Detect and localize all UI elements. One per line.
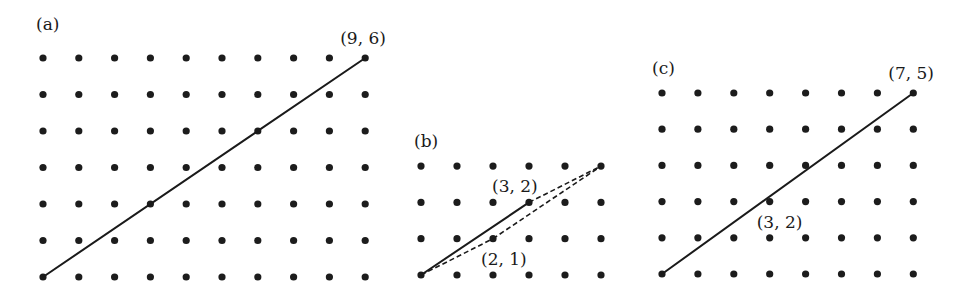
lattice-point [694,234,701,241]
lattice-point [417,235,424,242]
lattice-point [658,198,665,205]
lattice-point [326,127,333,134]
lattice-point [838,89,845,96]
lattice-point [453,163,460,170]
lattice-point [838,126,845,133]
lattice-point [39,54,46,61]
lattice-point [290,91,297,98]
lattice-point [39,200,46,207]
lattice-point [218,91,225,98]
lattice-point [802,234,809,241]
lattice-point [75,164,82,171]
lattice-point [730,89,737,96]
lattice-point [874,270,881,277]
lattice-point [147,54,154,61]
lattice-point [694,89,701,96]
lattice-point [183,54,190,61]
lattice-point [39,127,46,134]
lattice-point [658,234,665,241]
lattice-point [453,271,460,278]
lattice-point [838,162,845,169]
lattice-point [766,89,773,96]
lattice-point [730,198,737,205]
panel-b: (b)(3, 2)(2, 1) [414,131,605,279]
lattice-point [597,235,604,242]
lattice-point [874,234,881,241]
lattice-point [525,271,532,278]
lattice-point [802,198,809,205]
lattice-point [254,273,261,280]
panel-c: (c)(7, 5)(3, 2) [652,58,934,278]
lattice-point [218,127,225,134]
lattice-point [111,164,118,171]
solid-segment [43,58,365,277]
lattice-point [75,200,82,207]
lattice-point [326,273,333,280]
lattice-point [561,199,568,206]
panel-label: (b) [414,131,438,151]
lattice-point [453,199,460,206]
point-label: (3, 2) [757,212,803,232]
lattice-point [218,200,225,207]
lattice-point [254,164,261,171]
lattice-point [802,126,809,133]
point-label: (3, 2) [492,176,538,196]
lattice-point [218,237,225,244]
lattice-point [730,162,737,169]
lattice-point [290,127,297,134]
lattice-point [362,273,369,280]
lattice-point [290,164,297,171]
lattice-point [75,273,82,280]
lattice-point [254,54,261,61]
lattice-point [147,91,154,98]
lattice-point [910,198,917,205]
lattice-point [694,198,701,205]
lattice-point [694,162,701,169]
lattice-point [75,237,82,244]
lattice-point [362,91,369,98]
lattice-point [766,270,773,277]
lattice-point [326,91,333,98]
dashed-segment [529,166,601,202]
lattice-point [489,163,496,170]
lattice-point [254,237,261,244]
lattice-point [183,164,190,171]
lattice-point [838,234,845,241]
lattice-point [730,270,737,277]
lattice-point [218,273,225,280]
lattice-point [183,237,190,244]
lattice-point [525,235,532,242]
lattice-point [326,164,333,171]
lattice-point [111,91,118,98]
lattice-point [694,126,701,133]
point-label: (2, 1) [481,249,527,269]
lattice-point [838,198,845,205]
panel-label: (a) [36,14,59,34]
lattice-point [39,237,46,244]
lattice-point [111,200,118,207]
lattice-point [111,54,118,61]
lattice-point [290,200,297,207]
lattice-point [453,235,460,242]
lattice-point [910,126,917,133]
lattice-point [838,270,845,277]
lattice-point [183,200,190,207]
lattice-point [802,270,809,277]
lattice-point [362,237,369,244]
lattice-point [766,162,773,169]
lattice-point [874,198,881,205]
lattice-point [730,126,737,133]
lattice-point [254,91,261,98]
lattice-point [658,126,665,133]
panel-label: (c) [652,58,675,78]
lattice-point [362,164,369,171]
lattice-point [910,162,917,169]
lattice-point [39,91,46,98]
solid-segment [662,93,913,274]
lattice-point [597,199,604,206]
lattice-point [525,163,532,170]
lattice-point [183,273,190,280]
lattice-point [218,54,225,61]
lattice-point [111,237,118,244]
lattice-point [362,127,369,134]
